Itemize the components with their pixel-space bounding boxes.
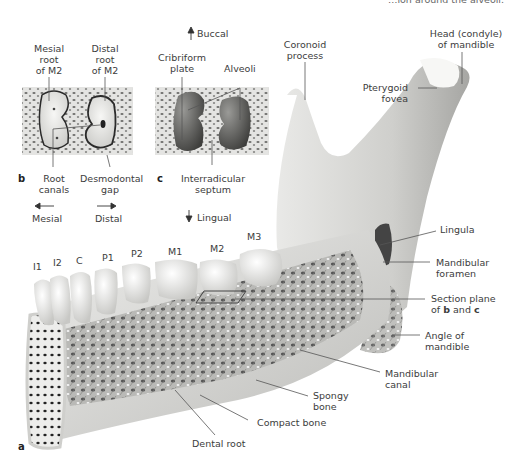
label-dental-root: Dental root bbox=[192, 438, 245, 449]
label-cribriform-plate: Cribriform plate bbox=[155, 52, 209, 74]
direction-distal: Distal bbox=[95, 213, 122, 224]
label-head-condyle: Head (condyle) of mandible bbox=[423, 28, 509, 50]
label-lingula: Lingula bbox=[440, 224, 474, 235]
label-coronoid-process: Coronoid process bbox=[280, 39, 330, 61]
panel-letter-c: c bbox=[157, 173, 163, 184]
label-spongy-bone: Spongy bone bbox=[313, 390, 349, 412]
tooth-label-p2: P2 bbox=[131, 248, 143, 259]
direction-mesial: Mesial bbox=[32, 213, 62, 224]
panel-letter-b: b bbox=[18, 173, 25, 184]
label-section-plane: Section plane of b and c bbox=[431, 293, 496, 315]
label-mandibular-canal: Mandibular canal bbox=[385, 368, 438, 390]
label-desmodontal-gap: Desmodontal gap bbox=[80, 173, 140, 195]
label-pterygoid-fovea: Pterygoid fovea bbox=[356, 82, 408, 104]
label-mesial-root: Mesial root of M2 bbox=[30, 43, 68, 76]
label-distal-root: Distal root of M2 bbox=[86, 43, 124, 76]
tooth-label-i2: I2 bbox=[53, 257, 62, 268]
tooth-label-c: C bbox=[76, 255, 83, 266]
label-angle-of-mandible: Angle of mandible bbox=[425, 330, 469, 352]
label-compact-bone: Compact bone bbox=[257, 417, 326, 428]
tooth-label-p1: P1 bbox=[102, 252, 114, 263]
panel-letter-a: a bbox=[18, 441, 25, 452]
tooth-label-m3: M3 bbox=[247, 231, 261, 242]
panel-b-crosssection bbox=[22, 87, 133, 155]
tooth-label-i1: I1 bbox=[33, 261, 42, 272]
label-alveoli: Alveoli bbox=[224, 63, 256, 74]
label-interradicular-septum: Interradicular septum bbox=[180, 173, 246, 195]
direction-buccal: Buccal bbox=[197, 28, 228, 39]
tooth-label-m2: M2 bbox=[210, 243, 224, 254]
label-mandibular-foramen: Mandibular foramen bbox=[436, 257, 489, 279]
direction-lingual: Lingual bbox=[197, 212, 231, 223]
label-root-canals: Root canals bbox=[36, 173, 72, 195]
tooth-label-m1: M1 bbox=[168, 246, 182, 257]
